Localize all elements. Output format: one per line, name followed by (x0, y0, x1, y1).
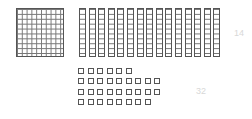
ten-rod (185, 8, 192, 57)
unit-cube (126, 89, 132, 95)
ten-rod (89, 8, 96, 57)
unit-cube (116, 68, 122, 74)
ten-rod (98, 8, 105, 57)
ten-rod (204, 8, 211, 57)
tens-count-label: 14 (234, 28, 244, 38)
unit-cube (78, 78, 84, 84)
unit-cube (116, 78, 122, 84)
unit-cube (154, 78, 160, 84)
ten-rod (137, 8, 144, 57)
unit-cube (135, 99, 141, 105)
ten-rod (165, 8, 172, 57)
unit-cube (107, 68, 113, 74)
ten-rod (175, 8, 182, 57)
unit-cube (88, 68, 94, 74)
unit-cube (78, 68, 84, 74)
ten-rod (108, 8, 115, 57)
units-count-label: 32 (196, 86, 206, 96)
unit-cube (116, 99, 122, 105)
unit-cube (78, 99, 84, 105)
ten-rod (194, 8, 201, 57)
unit-cube (145, 89, 151, 95)
unit-cube (126, 68, 132, 74)
unit-cube (88, 99, 94, 105)
unit-cube (97, 89, 103, 95)
unit-cube (116, 89, 122, 95)
unit-cube (78, 89, 84, 95)
unit-cube (88, 89, 94, 95)
unit-cube (145, 99, 151, 105)
unit-cube (107, 78, 113, 84)
unit-cube (107, 89, 113, 95)
unit-cube (97, 99, 103, 105)
hundred-flat-block (16, 8, 64, 57)
ten-rod (117, 8, 124, 57)
ten-rod (213, 8, 220, 57)
unit-cube (126, 99, 132, 105)
unit-cube (126, 78, 132, 84)
unit-cube (107, 99, 113, 105)
ten-rod (79, 8, 86, 57)
ten-rod (146, 8, 153, 57)
unit-cube (135, 89, 141, 95)
unit-cube (154, 89, 160, 95)
unit-cube (145, 78, 151, 84)
ten-rod (127, 8, 134, 57)
unit-cube (97, 68, 103, 74)
unit-cube (135, 78, 141, 84)
ten-rod (156, 8, 163, 57)
unit-cube (88, 78, 94, 84)
unit-cube (97, 78, 103, 84)
